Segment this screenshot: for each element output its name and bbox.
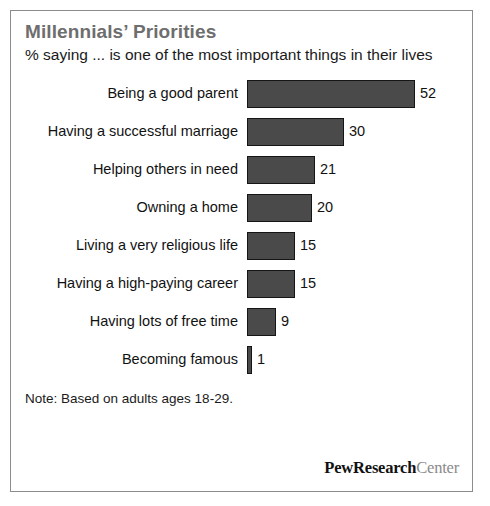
bar-row: Helping others in need 21: [25, 151, 460, 189]
bar-value-label: 9: [276, 314, 289, 330]
bar-fill: [247, 156, 315, 184]
bar-value-label: 52: [415, 86, 436, 102]
bar-value-label: 21: [315, 162, 336, 178]
bar-value-label: 30: [344, 124, 365, 140]
bar-fill: [247, 232, 295, 260]
bar-fill: [247, 118, 344, 146]
chart-inner: Millennials’ Priorities % saying ... is …: [11, 11, 472, 491]
bar-category-label: Having lots of free time: [25, 314, 247, 330]
bar-value-label: 20: [312, 200, 333, 216]
bar-category-label: Having a high-paying career: [25, 276, 247, 292]
bar-row: Becoming famous 1: [25, 341, 460, 379]
bar-track: 15: [247, 232, 460, 260]
chart-subtitle: % saying ... is one of the most importan…: [25, 46, 450, 65]
bar-value-label: 15: [295, 276, 316, 292]
chart-frame: Millennials’ Priorities % saying ... is …: [10, 10, 473, 492]
bar-row: Being a good parent 52: [25, 75, 460, 113]
bar-fill: [247, 194, 312, 222]
bar-track: 52: [247, 80, 460, 108]
bar-fill: [247, 80, 415, 108]
bar-category-label: Helping others in need: [25, 162, 247, 178]
bar-fill: [247, 308, 276, 336]
bar-row: Having lots of free time 9: [25, 303, 460, 341]
bar-value-label: 1: [252, 352, 265, 368]
bar-category-label: Living a very religious life: [25, 238, 247, 254]
bar-row: Owning a home 20: [25, 189, 460, 227]
bar-track: 21: [247, 156, 460, 184]
bar-fill: [247, 270, 295, 298]
bar-category-label: Becoming famous: [25, 352, 247, 368]
logo-bold-text: PewResearch: [324, 458, 416, 477]
bar-row: Having a high-paying career 15: [25, 265, 460, 303]
bar-track: 20: [247, 194, 460, 222]
bar-track: 15: [247, 270, 460, 298]
bar-track: 9: [247, 308, 460, 336]
chart-note: Note: Based on adults ages 18-29.: [25, 391, 460, 407]
bar-row: Living a very religious life 15: [25, 227, 460, 265]
bar-category-label: Having a successful marriage: [25, 124, 247, 140]
bar-category-label: Being a good parent: [25, 86, 247, 102]
bar-row: Having a successful marriage 30: [25, 113, 460, 151]
bar-track: 30: [247, 118, 460, 146]
bar-chart-plot: Being a good parent 52 Having a successf…: [25, 75, 460, 379]
logo-light-text: Center: [416, 458, 459, 477]
chart-title: Millennials’ Priorities: [25, 21, 460, 43]
bar-category-label: Owning a home: [25, 200, 247, 216]
bar-track: 1: [247, 346, 460, 374]
pew-research-center-logo: PewResearchCenter: [324, 458, 459, 478]
bar-value-label: 15: [295, 238, 316, 254]
